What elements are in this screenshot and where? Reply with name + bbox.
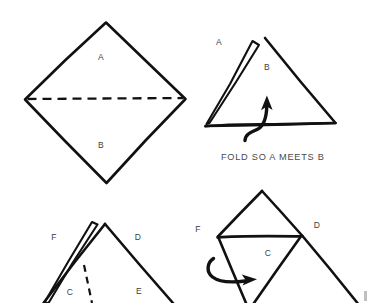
panel-4-inner-triangle-edge: [254, 237, 301, 303]
panel-4-inner-crease-line: [218, 236, 301, 237]
panel-4-labels: F D C: [195, 220, 320, 258]
panel-1-flat-diamond: [25, 23, 186, 184]
panel-3-label-f: F: [51, 232, 57, 242]
front-triangle-outline: [206, 38, 336, 126]
panel-1-label-a: A: [98, 52, 104, 62]
panel-4-upper-left-edge: [218, 191, 262, 237]
panel-4-kite: [208, 191, 357, 303]
panel-1-labels: A B: [98, 52, 104, 150]
fold-line-dashed: [28, 98, 184, 99]
panel-4-upper-right-edge: [262, 191, 303, 236]
panel-2-label-a: A: [216, 37, 222, 47]
panel-4-label-d: D: [314, 220, 321, 230]
page-edge-mark: [364, 291, 367, 301]
curved-arrow-right-shaft: [208, 259, 245, 282]
panel-3-label-d: D: [135, 232, 142, 242]
panel-2-folded-triangle: [206, 38, 336, 141]
panel-3-labels: F D C E: [51, 232, 142, 297]
panel-4-label-c: C: [265, 248, 272, 258]
panel-1-label-b: B: [98, 140, 104, 150]
panel-2-label-b: B: [264, 62, 270, 72]
panel-3-label-c: C: [67, 287, 74, 297]
panel-4-label-f: F: [195, 224, 201, 234]
rear-flap-outline: [207, 41, 260, 124]
panel-3-fold-line-dashed: [84, 265, 92, 303]
diamond-outline: [25, 23, 186, 184]
diagram-canvas: A B A B F: [0, 0, 368, 303]
panel-4-lower-right-edge: [303, 236, 358, 303]
panel-2-labels: A B: [216, 37, 270, 72]
panel-4-lower-left-edge: [218, 237, 246, 303]
panel-3-folded-peak: [44, 222, 174, 303]
panel-3-label-e: E: [136, 286, 142, 296]
fold-instruction-caption: FOLD SO A MEETS B: [221, 152, 325, 162]
